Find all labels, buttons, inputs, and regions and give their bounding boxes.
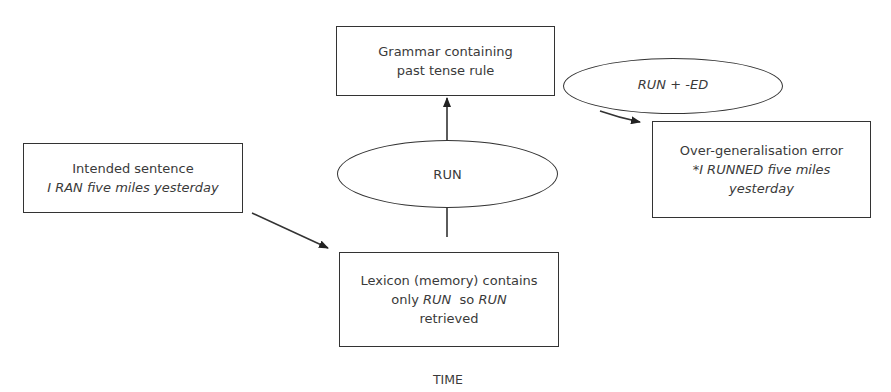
lexicon-line2-d: RUN	[478, 292, 506, 307]
rule-applied-label: RUN + -ED	[638, 77, 708, 92]
lexicon-line2-b: RUN	[423, 292, 451, 307]
intended-box: Intended sentence I RAN five miles yeste…	[23, 143, 243, 213]
error-box: Over-generalisation error *I RUNNED five…	[652, 121, 871, 218]
error-line3: yesterday	[729, 179, 794, 198]
retrieved-ellipse: RUN	[337, 140, 558, 208]
time-axis-label: TIME	[398, 372, 498, 387]
intended-line2: I RAN five miles yesterday	[47, 178, 219, 197]
lexicon-line2: only RUN so RUN	[391, 290, 506, 309]
lexicon-line3: retrieved	[419, 309, 478, 328]
grammar-line2: past tense rule	[397, 61, 495, 80]
lexicon-line2-c: so	[451, 292, 478, 307]
intended-line1: Intended sentence	[72, 159, 194, 178]
rule-applied-ellipse: RUN + -ED	[563, 58, 783, 114]
arrow-rule-to-error	[600, 111, 640, 122]
error-line2: *I RUNNED five miles	[693, 160, 831, 179]
lexicon-box: Lexicon (memory) contains only RUN so RU…	[339, 252, 559, 347]
grammar-box: Grammar containing past tense rule	[336, 26, 555, 96]
arrow-intended-to-lexicon	[252, 213, 328, 248]
lexicon-line2-a: only	[391, 292, 423, 307]
lexicon-line1: Lexicon (memory) contains	[360, 271, 537, 290]
grammar-line1: Grammar containing	[378, 42, 513, 61]
retrieved-label: RUN	[433, 167, 461, 182]
error-line1: Over-generalisation error	[680, 141, 843, 160]
